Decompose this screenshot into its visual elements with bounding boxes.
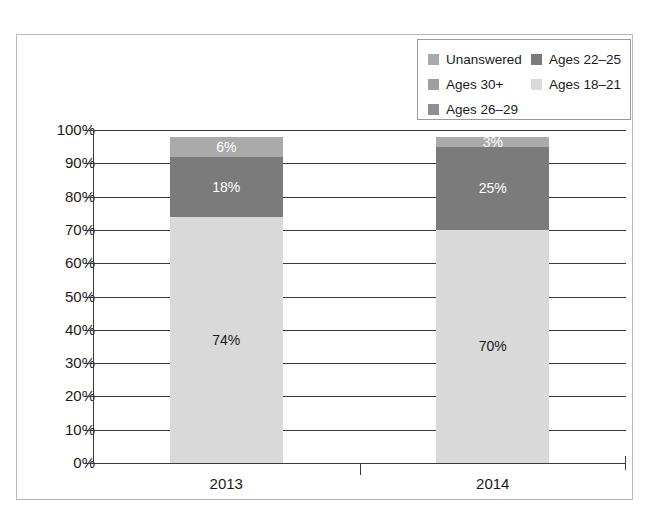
chart-frame: 100%90%80%70%60%50%40%30%20%10%0% 74%18%… [16,34,633,500]
legend-swatch-icon [531,54,542,65]
chart-legend: UnansweredAges 22–25Ages 30+Ages 18–21Ag… [417,39,631,120]
legend-swatch-icon [531,79,542,90]
y-axis-tick-0 [84,463,93,464]
legend-item-label: Unanswered [446,52,522,67]
legend-item-label: Ages 18–21 [549,77,621,92]
y-axis-labels: 100%90%80%70%60%50%40%30%20%10%0% [31,35,95,516]
x-axis-end-tick [625,456,626,470]
legend-item-label: Ages 30+ [446,77,503,92]
y-axis-tick-40 [84,330,93,331]
bar-2014[interactable]: 70%25%3% [436,130,549,463]
legend-item-ages-30-[interactable]: Ages 30+ [418,77,529,92]
bar-segment-value-label: 3% [483,134,503,150]
legend-swatch-icon [428,54,439,65]
legend-swatch-icon [428,104,439,115]
y-axis-tick-60 [84,263,93,264]
legend-item-ages-18-21[interactable]: Ages 18–21 [529,77,630,92]
bar-2013[interactable]: 74%18%6% [170,130,283,463]
y-axis-tick-80 [84,197,93,198]
y-axis-tick-50 [84,297,93,298]
y-axis-tick-70 [84,230,93,231]
y-axis-tick-90 [84,163,93,164]
bar-segment-value-label: 70% [479,338,507,354]
y-axis-tick-10 [84,430,93,431]
legend-row: Ages 30+Ages 18–21 [418,72,630,97]
legend-row: UnansweredAges 22–25 [418,47,630,72]
legend-row: Ages 26–29 [418,97,630,122]
bar-segment-2013-ages-22-25[interactable]: 18% [170,157,283,217]
bar-segment-value-label: 18% [212,179,240,195]
y-axis-tick-30 [84,363,93,364]
y-axis-tick-20 [84,396,93,397]
bar-segment-value-label: 74% [212,332,240,348]
y-axis-tick-100 [84,130,93,131]
bar-segment-2013-unanswered[interactable]: 6% [170,137,283,157]
legend-item-label: Ages 22–25 [549,52,621,67]
legend-swatch-icon [428,79,439,90]
plot-area: 74%18%6%70%25%3% [93,130,626,463]
x-axis-label-2013: 2013 [146,475,306,492]
bar-segment-2013-ages-18-21[interactable]: 74% [170,217,283,463]
legend-item-ages-26-29[interactable]: Ages 26–29 [418,102,530,117]
bar-segment-2014-ages-22-25[interactable]: 25% [436,147,549,230]
x-axis-label-2014: 2014 [413,475,573,492]
x-axis-mid-tick [360,463,361,475]
bar-segment-value-label: 6% [216,139,236,155]
bar-segment-value-label: 25% [479,180,507,196]
bar-segment-2014-unanswered[interactable]: 3% [436,137,549,147]
legend-item-ages-22-25[interactable]: Ages 22–25 [529,52,630,67]
bar-segment-2014-ages-18-21[interactable]: 70% [436,230,549,463]
legend-item-label: Ages 26–29 [446,102,518,117]
legend-item-unanswered[interactable]: Unanswered [418,52,529,67]
